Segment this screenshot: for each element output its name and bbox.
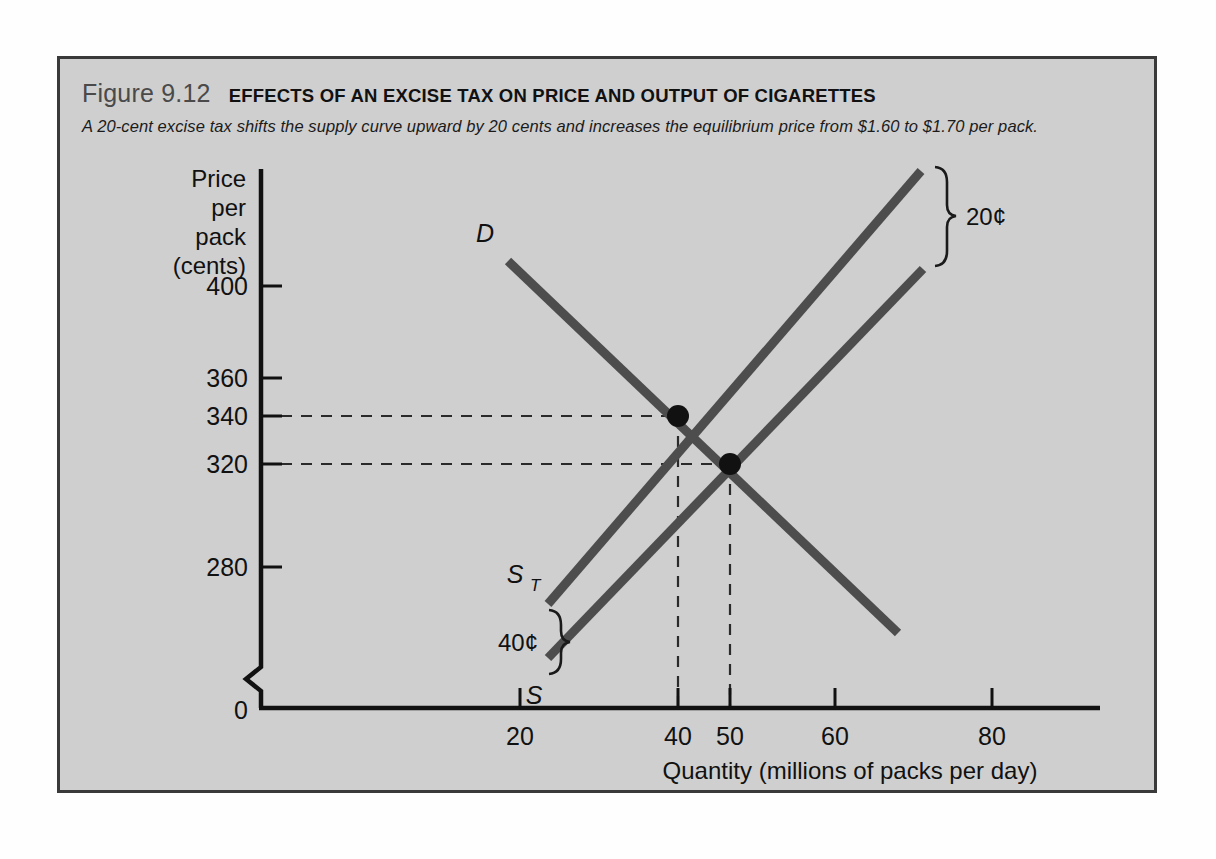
x-tick-label-60: 60 bbox=[821, 722, 849, 750]
x-tick-label-20: 20 bbox=[506, 722, 534, 750]
y-axis-title-line-3: pack bbox=[195, 223, 247, 250]
y-axis-title-line-2: per bbox=[211, 194, 246, 221]
x-tick-label-50: 50 bbox=[716, 722, 744, 750]
chart-plot-area: Price per pack (cents) bbox=[60, 59, 1160, 796]
x-tick-label-40: 40 bbox=[664, 722, 692, 750]
equilibrium-point-after-tax bbox=[667, 405, 689, 427]
tax-brace-top bbox=[935, 167, 956, 266]
origin-label: 0 bbox=[234, 696, 248, 724]
demand-curve-label: D bbox=[476, 219, 494, 247]
page-canvas: Figure 9.12EFFECTS OF AN EXCISE TAX ON P… bbox=[0, 0, 1216, 859]
supply-after-tax-label-group: S T bbox=[507, 560, 542, 595]
x-tick-label-80: 80 bbox=[978, 722, 1006, 750]
y-tick-label-360: 360 bbox=[206, 364, 248, 392]
y-tick-label-340: 340 bbox=[206, 402, 248, 430]
y-tick-label-400: 400 bbox=[206, 272, 248, 300]
y-tick-label-280: 280 bbox=[206, 553, 248, 581]
dashed-guide-lines bbox=[261, 416, 730, 708]
x-axis-title: Quantity (millions of packs per day) bbox=[663, 757, 1038, 784]
tax-brace-top-label: 20¢ bbox=[966, 203, 1006, 230]
figure-panel: Figure 9.12EFFECTS OF AN EXCISE TAX ON P… bbox=[57, 56, 1157, 793]
x-axis-ticks bbox=[520, 688, 992, 708]
y-tick-label-320: 320 bbox=[206, 450, 248, 478]
y-axis-title-line-1: Price bbox=[191, 165, 246, 192]
equilibrium-point-before-tax bbox=[719, 453, 741, 475]
y-axis-line bbox=[246, 169, 261, 708]
supply-after-tax-curve bbox=[548, 171, 921, 604]
y-axis-ticks bbox=[261, 286, 282, 567]
supply-before-tax-label: S bbox=[526, 681, 543, 709]
tax-brace-bottom-label: 40¢ bbox=[498, 629, 538, 656]
supply-after-tax-label: S bbox=[507, 560, 524, 588]
supply-after-tax-label-subscript: T bbox=[530, 576, 542, 595]
